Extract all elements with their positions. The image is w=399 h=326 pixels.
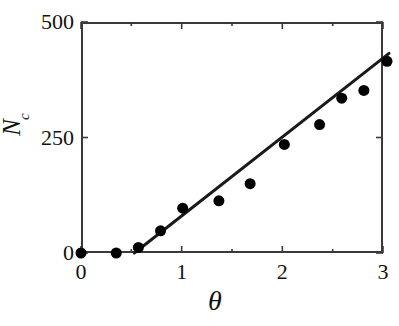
y-tick-label: 500: [22, 11, 74, 33]
plot-canvas: [0, 0, 399, 326]
caption-bottom-sliver: [0, 318, 399, 326]
y-tick-label: 0: [22, 242, 74, 264]
fit-line: [134, 53, 389, 253]
x-tick-label: 2: [277, 261, 288, 283]
x-tick-label: 0: [76, 261, 87, 283]
x-axis-label: θ: [208, 287, 222, 315]
y-tick-label: 250: [22, 127, 74, 149]
x-tick-label: 3: [378, 261, 389, 283]
y-axis-label-subscript: c: [16, 113, 32, 120]
y-axis-label-symbol: N: [0, 119, 25, 136]
x-tick-label: 1: [176, 261, 187, 283]
axis-ticks: [81, 22, 383, 253]
figure-container: 0250500 0123 Nc θ: [0, 0, 399, 326]
y-axis-label: Nc: [0, 112, 29, 135]
